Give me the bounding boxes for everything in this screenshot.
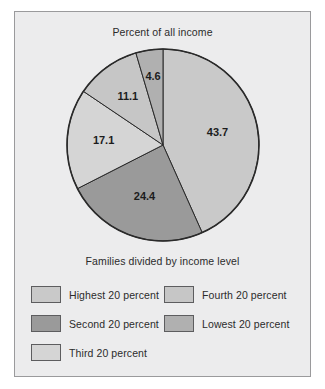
legend-item-lowest[interactable]: Lowest 20 percent — [164, 315, 296, 332]
legend-swatch-highest — [31, 286, 61, 303]
legend-swatch-fourth — [164, 286, 194, 303]
pie-slice-label: 11.1 — [117, 90, 138, 102]
pie-slice-label: 4.6 — [145, 70, 160, 82]
chart-title: Percent of all income — [15, 26, 310, 38]
legend-swatch-third — [31, 344, 61, 361]
legend-label-fourth: Fourth 20 percent — [202, 289, 287, 301]
legend-title: Families divided by income level — [15, 255, 310, 267]
legend-swatch-lowest — [164, 315, 194, 332]
legend-label-third: Third 20 percent — [69, 347, 147, 359]
pie-chart: 43.724.417.111.14.6 — [15, 45, 310, 245]
legend-item-fourth[interactable]: Fourth 20 percent — [164, 286, 296, 303]
legend-swatch-second — [31, 315, 61, 332]
legend-item-third[interactable]: Third 20 percent — [31, 344, 164, 361]
legend-label-second: Second 20 percent — [69, 318, 159, 330]
pie-slice-label: 43.7 — [206, 126, 227, 138]
chart-legend: Highest 20 percent Fourth 20 percent Sec… — [31, 280, 296, 367]
chart-figure: Percent of all income 43.724.417.111.14.… — [14, 11, 311, 377]
legend-label-highest: Highest 20 percent — [69, 289, 159, 301]
pie-slice-label: 24.4 — [133, 190, 155, 202]
pie-slice-label: 17.1 — [92, 134, 113, 146]
legend-item-highest[interactable]: Highest 20 percent — [31, 286, 164, 303]
legend-label-lowest: Lowest 20 percent — [202, 318, 290, 330]
legend-item-second[interactable]: Second 20 percent — [31, 315, 164, 332]
pie-chart-svg: 43.724.417.111.14.6 — [63, 45, 263, 245]
